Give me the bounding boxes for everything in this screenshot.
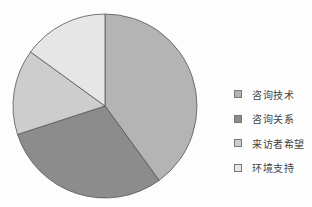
legend-item: 咨询技术 [234,88,305,100]
legend-swatch [234,139,242,147]
legend-label: 咨询关系 [252,111,294,126]
legend-label: 环境支持 [252,160,294,175]
legend-swatch [234,164,242,172]
legend-item: 咨询关系 [234,113,305,125]
legend-item: 来访者希望 [234,137,305,149]
legend-item: 环境支持 [234,162,305,174]
pie-chart [0,0,220,207]
legend-label: 来访者希望 [252,136,305,151]
legend-swatch [234,90,242,98]
legend-swatch [234,115,242,123]
legend-label: 咨询技术 [252,87,294,102]
legend: 咨询技术 咨询关系 来访者希望 环境支持 [234,88,305,186]
